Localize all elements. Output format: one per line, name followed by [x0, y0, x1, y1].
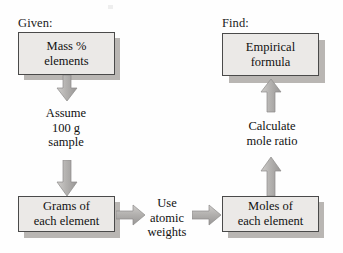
diagram-canvas: Given: Find: Mass % elements Empirical f…	[0, 0, 343, 253]
empirical-formula-box[interactable]: Empirical formula	[222, 33, 319, 76]
caption-find: Find:	[222, 17, 249, 30]
arrow-calculate-to-formula-icon	[260, 79, 282, 113]
connector-label-assume: Assume 100 g sample	[27, 106, 105, 150]
arrow-assume-to-grams-icon	[56, 160, 78, 197]
arrow-use-to-moles-icon	[192, 204, 222, 226]
arrow-mass-to-assume-icon	[56, 75, 78, 102]
connector-label-use-atomic-weights: Use atomic weights	[140, 196, 194, 240]
mass-percent-box[interactable]: Mass % elements	[18, 32, 115, 75]
grams-box-label: Grams of each element	[32, 199, 102, 229]
grams-box[interactable]: Grams of each element	[18, 196, 115, 232]
moles-box-label: Moles of each element	[236, 199, 306, 229]
scan-artifact	[108, 5, 113, 9]
arrow-moles-to-calculate-icon	[260, 157, 282, 197]
moles-box[interactable]: Moles of each element	[222, 196, 319, 232]
caption-given: Given:	[18, 17, 53, 30]
empirical-formula-box-label: Empirical formula	[244, 40, 297, 70]
connector-label-calculate-mole-ratio: Calculate mole ratio	[232, 119, 312, 148]
mass-percent-box-label: Mass % elements	[42, 39, 90, 69]
